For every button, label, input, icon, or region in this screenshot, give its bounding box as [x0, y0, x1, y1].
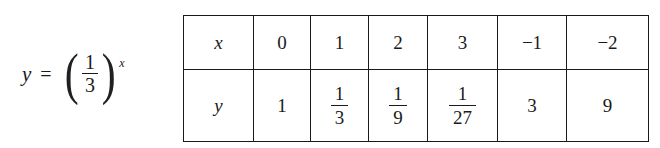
- row-header-y: y: [184, 70, 254, 142]
- cell-x-5-value: −2: [597, 32, 617, 53]
- cell-y-2-numerator: 1: [389, 84, 407, 105]
- row-header-y-label: y: [214, 95, 222, 116]
- equation-expression: y = ( 1 3 ) x: [22, 26, 172, 122]
- cell-y-5: 9: [567, 70, 649, 142]
- left-parenthesis-glyph: (: [64, 51, 78, 96]
- cell-x-3-value: 3: [458, 32, 468, 53]
- cell-y-0: 1: [254, 70, 311, 142]
- cell-y-1-numerator: 1: [331, 84, 349, 105]
- cell-y-5-content: 9: [567, 70, 648, 141]
- cell-y-3-content: 1 27: [428, 70, 497, 141]
- cell-y-2-denominator: 9: [389, 106, 407, 127]
- row-header-x-label: x: [214, 32, 222, 53]
- table-row-x: x 0 1 2 3 −1 −2: [184, 16, 649, 70]
- equation-lhs-variable: y: [22, 64, 40, 85]
- cell-y-3-fraction: 1 27: [449, 84, 476, 127]
- cell-y-1: 1 3: [311, 70, 369, 142]
- equation-base-numerator: 1: [82, 52, 98, 73]
- cell-y-3: 1 27: [428, 70, 498, 142]
- cell-y-3-numerator: 1: [454, 84, 472, 105]
- cell-x-3: 3: [428, 16, 498, 70]
- equation-base-denominator: 3: [82, 74, 98, 95]
- cell-x-4: −1: [498, 16, 567, 70]
- cell-x-1: 1: [311, 16, 369, 70]
- cell-y-1-content: 1 3: [311, 70, 368, 141]
- cell-y-0-value: 1: [277, 95, 287, 117]
- cell-y-0-content: 1: [254, 70, 310, 141]
- equation-base-fraction: 1 3: [80, 52, 100, 95]
- cell-x-0-value: 0: [277, 32, 287, 53]
- equation-equals-sign: =: [40, 64, 61, 84]
- cell-y-4: 3: [498, 70, 567, 142]
- cell-y-2-fraction: 1 9: [389, 84, 407, 127]
- cell-y-4-content: 3: [498, 70, 566, 141]
- cell-x-5: −2: [567, 16, 649, 70]
- table-row-y: y 1 1 3 1: [184, 70, 649, 142]
- cell-x-0: 0: [254, 16, 311, 70]
- cell-y-2-content: 1 9: [369, 70, 427, 141]
- cell-y-1-fraction: 1 3: [331, 84, 349, 127]
- equation-exponent: x: [119, 57, 124, 69]
- right-parenthesis-glyph: ): [102, 51, 116, 96]
- equation-power-group: ( 1 3 ) x: [62, 51, 125, 96]
- cell-y-3-denominator: 27: [449, 106, 476, 127]
- cell-x-2: 2: [369, 16, 428, 70]
- cell-x-1-value: 1: [335, 32, 345, 53]
- cell-y-2: 1 9: [369, 70, 428, 142]
- row-header-x: x: [184, 16, 254, 70]
- cell-y-4-value: 3: [527, 95, 537, 117]
- function-value-table: x 0 1 2 3 −1 −2 y: [183, 15, 649, 142]
- equation-parenthesized-base: ( 1 3 ): [62, 51, 119, 96]
- cell-x-2-value: 2: [393, 32, 403, 53]
- cell-x-4-value: −1: [522, 32, 542, 53]
- cell-y-5-value: 9: [603, 95, 613, 117]
- cell-y-1-denominator: 3: [331, 106, 349, 127]
